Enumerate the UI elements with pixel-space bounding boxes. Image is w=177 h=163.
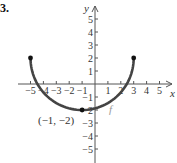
x-tick-label: −5 <box>25 85 36 96</box>
y-tick-label: −5 <box>82 144 93 155</box>
function-f-label: f <box>109 103 114 115</box>
x-axis-label: x <box>169 87 175 99</box>
point-marker <box>28 56 33 61</box>
y-tick-label: −1 <box>82 92 93 103</box>
point-marker <box>131 56 136 61</box>
y-tick-label: 2 <box>88 53 93 64</box>
y-tick-label: 5 <box>88 14 93 25</box>
problem-number: 3. <box>0 1 9 15</box>
y-tick-label: 1 <box>88 66 93 77</box>
y-tick-label: 4 <box>88 27 93 38</box>
x-tick-label: 5 <box>157 85 162 96</box>
x-tick-label: −2 <box>64 85 75 96</box>
point-marker <box>80 108 85 113</box>
x-tick-label: 1 <box>105 85 110 96</box>
function-graph: 3. −5−4−3−2−112345 −5−4−3−2−112345 x y f… <box>0 0 177 163</box>
y-tick-label: −3 <box>82 118 93 129</box>
y-tick-label: 3 <box>88 40 93 51</box>
x-tick-label: −3 <box>51 85 62 96</box>
x-tick-label: 3 <box>131 85 136 96</box>
vertex-label: (−1, −2) <box>38 114 75 127</box>
axes: −5−4−3−2−112345 −5−4−3−2−112345 x y <box>18 2 175 163</box>
x-tick-label: 4 <box>144 85 149 96</box>
y-tick-label: −4 <box>82 131 93 142</box>
y-axis-label: y <box>83 2 89 14</box>
